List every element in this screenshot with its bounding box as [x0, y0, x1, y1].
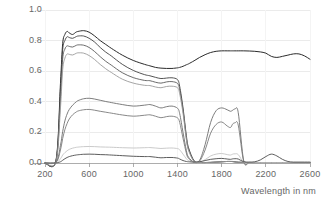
x-axis-tick-label: 1800 — [202, 169, 242, 179]
x-axis-tick-label: 1000 — [113, 169, 153, 179]
x-axis-tick-label: 1400 — [158, 169, 198, 179]
y-axis-tick-label: 0.6 — [20, 65, 42, 75]
y-axis-tick-label: 0.2 — [20, 126, 42, 136]
x-axis-tick-label: 2200 — [246, 169, 286, 179]
x-axis-tick-label: 200 — [25, 169, 65, 179]
x-axis-title: Wavelength in nm — [241, 186, 316, 196]
y-axis-tick-label: 0.8 — [20, 35, 42, 45]
spectral-reflectance-chart: 0.00.20.40.60.81.0 200600100014001800220… — [0, 0, 324, 199]
y-axis-tick-label: 0.4 — [20, 96, 42, 106]
y-axis-tick-label: 1.0 — [20, 4, 42, 14]
axis-tick-marks — [45, 163, 310, 167]
x-axis-tick-label: 2600 — [290, 169, 324, 179]
y-axis-tick-label: 0.0 — [20, 157, 42, 167]
x-axis-tick-label: 600 — [69, 169, 109, 179]
